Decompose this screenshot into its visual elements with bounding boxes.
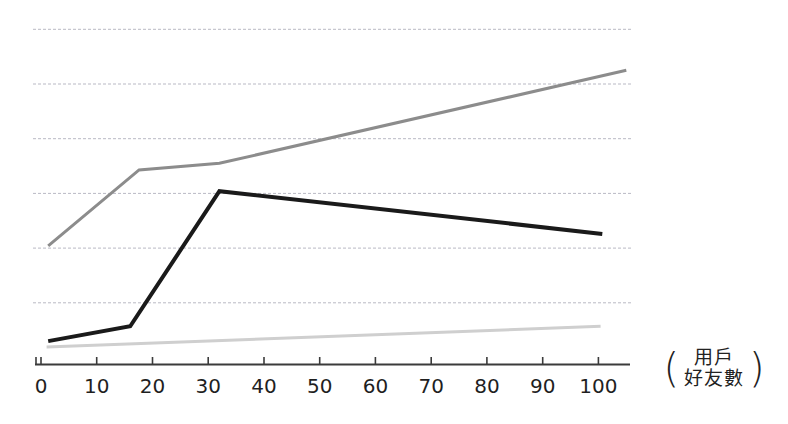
- x-axis-label-text: 用戶 好友數: [679, 347, 749, 390]
- paren-close-icon: ): [749, 348, 765, 388]
- x-tick-label: 40: [251, 374, 276, 398]
- gridlines: [33, 29, 632, 303]
- x-tick-label: 90: [530, 374, 555, 398]
- x-axis-label-line2: 好友數: [684, 368, 744, 389]
- paren-open-icon: (: [663, 348, 679, 388]
- x-tick-label: 80: [474, 374, 499, 398]
- x-axis-label-line1: 用戶: [694, 347, 734, 368]
- x-tick-label: 0: [35, 374, 48, 398]
- x-tick-labels: 0102030405060708090100: [35, 374, 618, 398]
- x-axis-label: ( 用戶 好友數 ): [646, 336, 782, 400]
- chart-container: 0102030405060708090100 ( 用戶 好友數 ): [0, 0, 788, 424]
- series-black: [48, 191, 602, 341]
- x-tick-label: 70: [418, 374, 443, 398]
- x-tick-label: 60: [363, 374, 388, 398]
- x-axis: [35, 357, 630, 365]
- x-tick-label: 20: [140, 374, 165, 398]
- x-tick-label: 50: [307, 374, 332, 398]
- series-dark-gray: [48, 70, 626, 246]
- x-tick-label: 30: [195, 374, 220, 398]
- x-tick-label: 100: [579, 374, 617, 398]
- series-layer: [47, 70, 627, 347]
- series-light-gray: [47, 326, 601, 347]
- x-tick-label: 10: [84, 374, 109, 398]
